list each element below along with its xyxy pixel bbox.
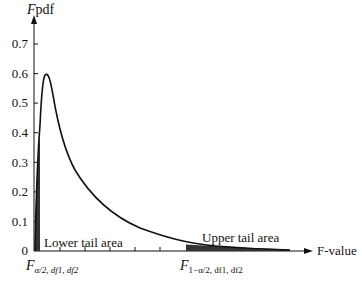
y-tick-label-0.6: 0.6 bbox=[0, 67, 28, 80]
y-tick-label-0.1: 0.1 bbox=[0, 215, 28, 228]
y-tick-label-0.3: 0.3 bbox=[0, 156, 28, 169]
lower-critical-value-label: Fα/2, df1, df2 bbox=[26, 259, 78, 275]
upper-tail-label: Upper tail area bbox=[202, 231, 279, 244]
y-tick-label-0.2: 0.2 bbox=[0, 185, 28, 198]
y-axis-label: Fpdf bbox=[27, 3, 54, 17]
y-tick-label-0: 0 bbox=[0, 244, 28, 257]
x-axis-arrow-icon bbox=[304, 248, 313, 254]
pdf-curve bbox=[35, 74, 290, 251]
x-axis-label: F-value bbox=[317, 244, 357, 257]
y-tick-label-0.4: 0.4 bbox=[0, 126, 28, 139]
lower-tail-label: Lower tail area bbox=[44, 236, 123, 249]
y-tick-label-0.5: 0.5 bbox=[0, 96, 28, 109]
upper-critical-value-label: F1−α/2, df1, df2 bbox=[180, 259, 243, 275]
y-tick-label-0.7: 0.7 bbox=[0, 37, 28, 50]
